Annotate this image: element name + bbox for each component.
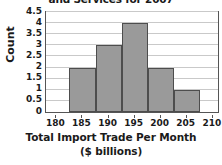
y-tick-label: 0.5 [16, 95, 42, 104]
histogram-bar [69, 68, 95, 112]
x-axis-tick-labels: 180185190195200205210 [45, 115, 219, 127]
gridline [46, 11, 218, 12]
y-tick-label: 4.5 [16, 7, 42, 16]
y-tick-label: 1.5 [16, 73, 42, 82]
histogram-bar [96, 45, 122, 112]
histogram-bar [148, 68, 174, 112]
histogram-chart: and Services for 2007 Count 00.511.522.5… [0, 0, 222, 165]
y-tick-label: 1 [16, 84, 42, 93]
x-axis-label-line2: ($ billions) [0, 145, 222, 157]
y-tick-label: 0 [16, 107, 42, 116]
y-tick-label: 3 [16, 40, 42, 49]
plot-area [45, 11, 219, 113]
y-tick-label: 4 [16, 18, 42, 27]
y-tick-label: 3.5 [16, 29, 42, 38]
histogram-bar [122, 23, 148, 112]
x-tick-label: 210 [197, 118, 222, 128]
histogram-bar [174, 90, 200, 112]
x-axis-label-line1: Total Import Trade Per Month [0, 131, 222, 143]
y-tick-label: 2.5 [16, 51, 42, 60]
y-tick-label: 2 [16, 62, 42, 71]
